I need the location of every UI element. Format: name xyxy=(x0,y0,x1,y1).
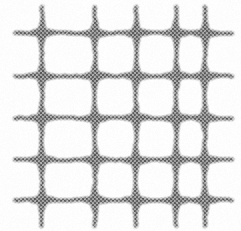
mesh-image-figure: Woven wire mesh grid Scanned grayscale m… xyxy=(0,0,241,231)
mesh-grid-canvas xyxy=(0,0,241,231)
